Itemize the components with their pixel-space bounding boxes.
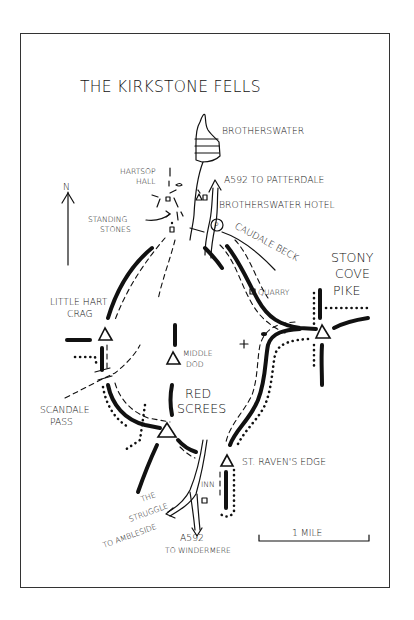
red-screes-ridge bbox=[171, 385, 173, 415]
label-little-hart-2: CRAG bbox=[67, 308, 93, 319]
cross-marker bbox=[240, 340, 248, 348]
brotherswater-hotel-marker bbox=[196, 190, 207, 200]
north-label: N bbox=[63, 181, 70, 192]
st-ravens-walls bbox=[218, 470, 234, 517]
scandale-to-red-screes-route bbox=[103, 383, 170, 450]
label-standing-1: STANDING bbox=[88, 215, 128, 224]
standing-stones-marker bbox=[146, 211, 183, 232]
label-stony-1: STONY bbox=[331, 250, 374, 265]
label-struggle-3: TO AMBLESIDE bbox=[102, 522, 158, 550]
kirkstone-fells-map: THE KIRKSTONE FELLS N BROTHERSWATER HART… bbox=[0, 0, 414, 620]
peak-st-ravens-edge-icon bbox=[221, 455, 233, 466]
red-screes-descent bbox=[138, 440, 196, 492]
label-red-screes-2: SCREES bbox=[177, 401, 226, 416]
label-parking: P bbox=[214, 221, 219, 230]
peak-stony-cove-pike-icon bbox=[316, 325, 330, 338]
label-caudale-beck: CAUDALE BECK bbox=[233, 220, 301, 263]
label-stony-3: PIKE bbox=[333, 283, 360, 298]
label-brotherswater: BROTHERSWATER bbox=[222, 125, 304, 136]
hartsop-hall-buildings bbox=[152, 168, 182, 207]
label-inn: INN bbox=[201, 480, 215, 489]
label-red-screes-1: RED bbox=[185, 386, 211, 401]
label-standing-2: STONES bbox=[100, 225, 131, 234]
label-scandale-2: PASS bbox=[50, 416, 73, 427]
western-ridge-route bbox=[108, 238, 222, 320]
inn-marker bbox=[202, 498, 207, 503]
north-arrow-icon bbox=[62, 192, 74, 265]
label-a592-windermere-2: TO WINDERMERE bbox=[165, 546, 231, 555]
little-hart-walls bbox=[67, 340, 112, 380]
label-struggle-1: THE bbox=[140, 490, 158, 504]
map-title: THE KIRKSTONE FELLS bbox=[80, 78, 261, 96]
label-brotherswater-hotel: BROTHERSWATER HOTEL bbox=[219, 199, 335, 210]
peak-little-hart-crag-icon bbox=[99, 328, 112, 340]
label-a592-windermere-1: A592 bbox=[180, 532, 204, 543]
label-scandale-1: SCANDALE bbox=[40, 404, 90, 415]
label-little-hart-1: LITTLE HART bbox=[50, 296, 108, 307]
peak-middle-dod-icon bbox=[167, 352, 180, 364]
label-stony-2: COVE bbox=[335, 266, 370, 281]
peak-red-screes-icon bbox=[158, 423, 176, 437]
label-middle-dod-2: DOD bbox=[186, 360, 204, 369]
caudale-ridge-route bbox=[220, 240, 316, 333]
kirkstone-pass-road bbox=[226, 322, 308, 448]
label-hartsop-1: HARTSOP bbox=[120, 167, 156, 176]
label-hartsop-2: HALL bbox=[136, 177, 155, 186]
label-scale: 1 MILE bbox=[292, 527, 322, 538]
label-a592-patterdale: A592 TO PATTERDALE bbox=[224, 174, 324, 185]
label-st-ravens-edge: ST. RAVEN'S EDGE bbox=[242, 456, 326, 467]
label-middle-dod-1: MIDDLE bbox=[183, 349, 213, 358]
label-struggle-2: STRUGGLE bbox=[128, 501, 170, 524]
